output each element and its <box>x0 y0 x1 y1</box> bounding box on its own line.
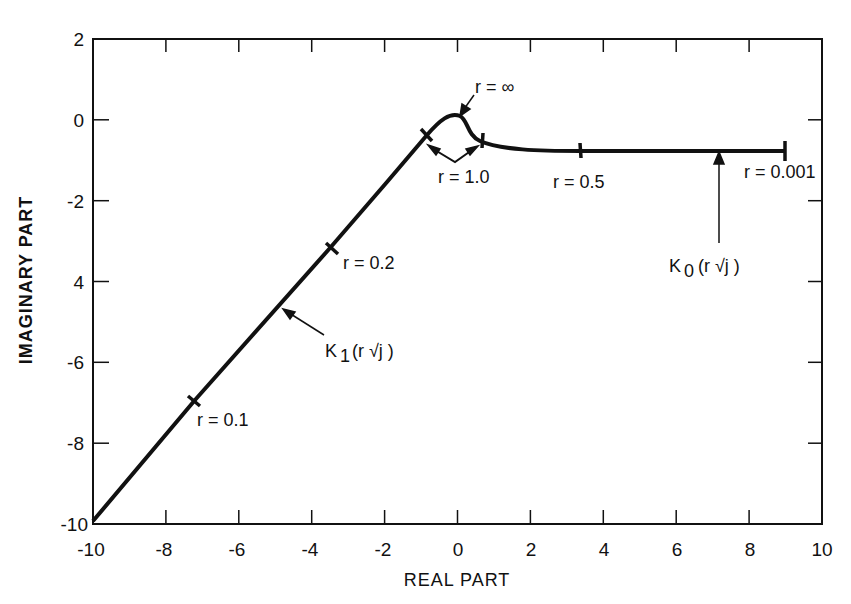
annotation-arrows <box>283 95 724 335</box>
x-tick-label: -10 <box>77 539 104 560</box>
label-k1: K 1 (r √j ) <box>325 341 394 366</box>
x-tick-label: -2 <box>375 539 392 560</box>
svg-text:(r √j ): (r √j ) <box>352 341 394 361</box>
x-tick-label: -4 <box>302 539 319 560</box>
label-k0: K 0 (r √j ) <box>669 256 740 281</box>
svg-text:(r √j ): (r √j ) <box>698 256 740 276</box>
x-tick-label: 6 <box>672 539 683 560</box>
marker-r-0.5 <box>580 143 581 158</box>
label-r-0.5: r = 0.5 <box>553 172 605 192</box>
svg-text:K: K <box>669 256 681 276</box>
x-tick-label: 0 <box>453 539 464 560</box>
x-tick-labels: -10 -8 -6 -4 -2 0 2 4 6 8 10 <box>77 539 832 560</box>
x-tick-label: -8 <box>156 539 173 560</box>
svg-text:0: 0 <box>684 261 694 281</box>
x-tick-label: 10 <box>811 539 832 560</box>
x-tick-label: 8 <box>745 539 756 560</box>
svg-text:1: 1 <box>340 346 350 366</box>
x-tick-label: 4 <box>599 539 610 560</box>
x-tick-label: 2 <box>526 539 537 560</box>
label-r-1.0: r = 1.0 <box>438 167 490 187</box>
y-tick-label: -8 <box>67 433 84 454</box>
y-tick-label: 2 <box>73 29 84 50</box>
y-axis-title: IMAGINARY PART <box>16 196 36 365</box>
y-tick-label: 4 <box>73 272 84 293</box>
x-axis-title: REAL PART <box>404 570 511 590</box>
label-r-0.2: r = 0.2 <box>343 253 395 273</box>
y-tick-label: 0 <box>73 110 84 131</box>
marker-r-1.0-right <box>482 133 483 148</box>
label-r-infinity: r = ∞ <box>475 77 515 97</box>
label-r-0.001: r = 0.001 <box>744 162 816 182</box>
y-tick-label: -10 <box>61 514 88 535</box>
x-tick-label: -6 <box>229 539 246 560</box>
y-tick-label: -6 <box>67 352 84 373</box>
plot-frame <box>93 39 822 524</box>
label-r-0.1: r = 0.1 <box>197 410 249 430</box>
y-tick-label: -2 <box>67 191 84 212</box>
chart-canvas: -10 -8 -6 -4 -2 0 2 4 6 8 10 2 0 -2 4 -6… <box>0 0 851 604</box>
x-axis-ticks <box>166 39 749 524</box>
y-tick-labels: 2 0 -2 4 -6 -8 -10 <box>61 29 88 535</box>
svg-text:K: K <box>325 341 337 361</box>
